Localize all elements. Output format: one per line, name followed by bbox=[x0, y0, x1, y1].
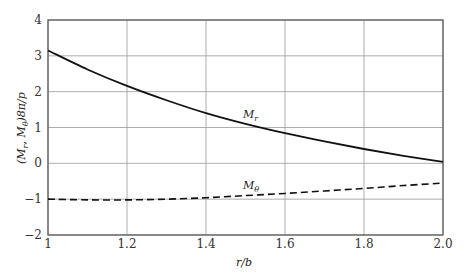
line-chart: 11.21.41.61.82.0 43210−1−2 Mr Mθ r/b (Mr… bbox=[0, 0, 464, 276]
mr-label: Mr bbox=[242, 108, 259, 123]
x-tick-label: 1.6 bbox=[275, 237, 294, 251]
y-tick-label: 4 bbox=[34, 13, 42, 27]
y-axis-label: (Mr, Mθ)8π/p bbox=[15, 92, 30, 164]
y-tick-label: −1 bbox=[24, 192, 42, 206]
mtheta-label: Mθ bbox=[242, 179, 259, 194]
x-tick-label: 2.0 bbox=[433, 237, 452, 251]
x-axis-ticks: 11.21.41.61.82.0 bbox=[44, 237, 452, 251]
y-tick-label: 2 bbox=[34, 85, 42, 99]
x-tick-label: 1.2 bbox=[117, 237, 136, 251]
y-tick-label: 3 bbox=[34, 49, 42, 63]
x-tick-label: 1.8 bbox=[354, 237, 373, 251]
y-tick-label: −2 bbox=[24, 228, 42, 242]
x-tick-label: 1.4 bbox=[196, 237, 215, 251]
mr-curve bbox=[48, 50, 443, 161]
y-tick-label: 0 bbox=[34, 156, 42, 170]
x-axis-label: r/b bbox=[236, 256, 252, 269]
grid-lines bbox=[48, 20, 443, 235]
x-tick-label: 1 bbox=[44, 237, 52, 251]
y-tick-label: 1 bbox=[34, 121, 42, 135]
